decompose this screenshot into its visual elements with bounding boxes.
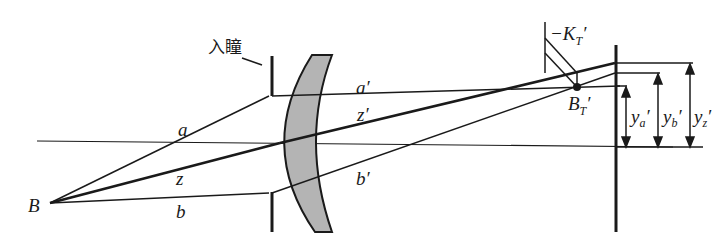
ya-arrow — [622, 87, 630, 147]
k-label: −KT′ — [550, 23, 587, 48]
ray-z-prime-label: z′ — [356, 104, 369, 125]
focus-point-label: BT′ — [568, 93, 591, 118]
yz-label: yz′ — [692, 106, 712, 130]
yz-arrow — [686, 64, 694, 147]
optical-axis — [37, 141, 673, 147]
optical-diagram: 入瞳 B a z b a′ z′ b′ BT′ −KT′ ya′ yb′ yz′ — [0, 0, 728, 249]
ray-b-label: b — [176, 201, 186, 222]
yb-label: yb′ — [661, 106, 682, 130]
ray-b-prime-label: b′ — [356, 168, 371, 189]
ray-a-prime-label: a′ — [356, 77, 371, 98]
ray-z-label: z — [175, 168, 184, 189]
ray-a — [50, 96, 269, 203]
point-b-label: B — [28, 195, 40, 216]
entrance-pupil-label: 入瞳 — [208, 37, 242, 57]
yb-arrow — [654, 74, 662, 147]
k-diag-2 — [545, 53, 577, 87]
ray-a-label: a — [178, 119, 188, 140]
ya-label: ya′ — [629, 106, 650, 130]
pupil-leader — [242, 58, 262, 65]
